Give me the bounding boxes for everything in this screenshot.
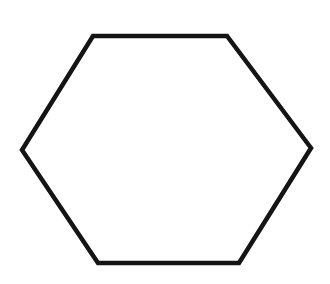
hexagon-shape — [22, 36, 311, 263]
diagram-canvas — [0, 0, 330, 284]
